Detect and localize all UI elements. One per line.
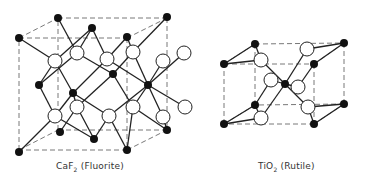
anion-atom-icon (156, 110, 170, 124)
crystal-structures-diagram (0, 0, 365, 183)
anion-atom-icon (70, 46, 84, 60)
cation-atom-icon (123, 33, 131, 41)
cation-atom-icon (88, 24, 96, 32)
bond-line (314, 43, 344, 64)
fluorite-structure (15, 13, 192, 156)
anion-atom-icon (102, 109, 116, 123)
cation-atom-icon (220, 120, 228, 128)
cation-atom-icon (340, 100, 348, 108)
cation-atom-icon (220, 60, 228, 68)
unit-cell-edge (127, 18, 167, 38)
cation-atom-icon (340, 39, 348, 47)
cation-atom-icon (281, 80, 289, 88)
fluorite-formula: CaF (56, 161, 74, 171)
cation-atom-icon (163, 126, 171, 134)
cation-atom-icon (251, 40, 259, 48)
fluorite-name: (Fluorite) (78, 161, 124, 171)
cation-atom-icon (35, 81, 43, 89)
cation-atom-icon (56, 128, 64, 136)
fluorite-caption: CaF2 (Fluorite) (56, 161, 124, 173)
rutile-structure (220, 39, 348, 128)
unit-cell-edge (127, 130, 167, 150)
cation-atom-icon (144, 81, 152, 89)
cation-atom-icon (54, 14, 62, 22)
cation-atom-icon (90, 135, 98, 143)
anion-atom-icon (70, 100, 84, 114)
cation-atom-icon (163, 13, 171, 21)
anion-atom-icon (254, 53, 268, 67)
cation-atom-icon (109, 70, 117, 78)
anion-atom-icon (100, 52, 114, 66)
anion-atom-icon (178, 100, 192, 114)
cation-atom-icon (69, 89, 77, 97)
anion-atom-icon (291, 80, 305, 94)
unit-cell-edge (19, 18, 58, 38)
anion-atom-icon (264, 73, 278, 87)
anion-atom-icon (126, 45, 140, 59)
anion-atom-icon (48, 109, 62, 123)
unit-cell-edge (255, 43, 344, 44)
anion-atom-icon (254, 111, 268, 125)
cation-atom-icon (123, 146, 131, 154)
rutile-caption: TiO2 (Rutile) (258, 161, 315, 173)
bond-line (314, 104, 344, 124)
anion-atom-icon (301, 100, 315, 114)
anion-atom-icon (300, 42, 314, 56)
anion-atom-icon (156, 54, 170, 68)
rutile-formula: TiO (258, 161, 273, 171)
anion-atom-icon (126, 100, 140, 114)
anion-atom-icon (48, 54, 62, 68)
cation-atom-icon (310, 60, 318, 68)
cation-atom-icon (251, 101, 259, 109)
cation-atom-icon (15, 34, 23, 42)
anion-atom-icon (177, 46, 191, 60)
rutile-name: (Rutile) (277, 161, 314, 171)
cation-atom-icon (15, 148, 23, 156)
cation-atom-icon (310, 120, 318, 128)
